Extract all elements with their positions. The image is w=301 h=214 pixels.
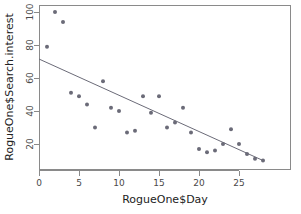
y-tick-label: 80: [25, 39, 35, 51]
y-tick-label: 100: [25, 3, 35, 20]
plot-canvas: 20406080100 0510152025 RogueOne$Day Rogu…: [0, 0, 301, 214]
data-point: [61, 20, 65, 24]
data-point: [133, 129, 137, 133]
data-point: [53, 10, 57, 14]
y-tick-label: 20: [25, 138, 35, 150]
plot-frame: [40, 6, 291, 170]
data-point: [109, 106, 113, 110]
data-point: [69, 91, 73, 95]
data-point: [213, 149, 217, 153]
data-point: [77, 94, 81, 98]
data-point: [173, 121, 177, 125]
data-point: [221, 142, 225, 146]
data-point: [229, 127, 233, 131]
data-point: [93, 126, 97, 130]
scatter-plot-figure: 20406080100 0510152025 RogueOne$Day Rogu…: [0, 0, 301, 214]
data-point: [45, 45, 49, 49]
x-tick-label: 0: [36, 178, 42, 188]
x-tick-label: 15: [153, 178, 164, 188]
x-tick-label: 20: [193, 178, 205, 188]
x-tick-label: 10: [113, 178, 125, 188]
data-point: [253, 157, 257, 161]
y-axis: 20406080100: [25, 3, 40, 150]
data-point: [101, 79, 105, 83]
x-axis-title: RogueOne$Day: [122, 193, 208, 206]
data-point: [205, 150, 209, 154]
data-point: [117, 109, 121, 113]
data-point: [157, 94, 161, 98]
regression-line: [39, 59, 263, 160]
data-point: [237, 142, 241, 146]
y-tick-label: 60: [25, 72, 35, 84]
data-point: [85, 102, 89, 106]
x-tick-label: 5: [76, 178, 82, 188]
y-axis-title: RogueOne$Search.interest: [3, 13, 16, 161]
y-tick-label: 40: [25, 105, 35, 117]
x-tick-label: 25: [233, 178, 244, 188]
data-point: [245, 152, 249, 156]
data-point: [197, 147, 201, 151]
data-point: [141, 94, 145, 98]
data-point: [125, 130, 129, 134]
data-point: [149, 111, 153, 115]
data-points-layer: [45, 10, 265, 163]
data-point: [189, 130, 193, 134]
data-point: [181, 106, 185, 110]
data-point: [165, 126, 169, 130]
x-axis: 0510152025: [36, 171, 245, 189]
data-point: [261, 159, 265, 163]
